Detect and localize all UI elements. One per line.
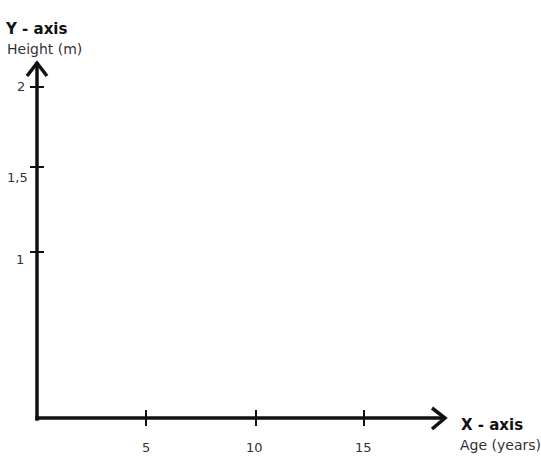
y-axis-label: Height (m)	[7, 41, 82, 57]
x-tick-label-10: 10	[246, 440, 263, 455]
x-axis-label: Age (years)	[460, 437, 541, 453]
y-tick-label-1-5: 1,5	[7, 170, 28, 185]
y-tick-label-1: 1	[16, 252, 24, 267]
x-axis-title: X - axis	[461, 416, 523, 434]
y-tick-label-2: 2	[17, 79, 25, 94]
x-tick-label-5: 5	[142, 440, 150, 455]
x-tick-label-15: 15	[355, 440, 372, 455]
y-axis-title: Y - axis	[6, 20, 67, 38]
axes-canvas	[0, 0, 541, 467]
